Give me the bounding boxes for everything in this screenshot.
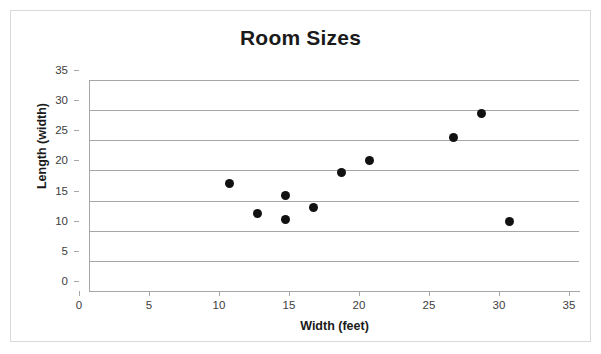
x-tick-label-25: 25 [423,299,436,311]
gridline-y-15 [89,201,579,202]
x-tick-label-30: 30 [493,299,506,311]
y-tick-mark-5 [74,251,79,252]
x-tick-mark-35 [569,291,570,296]
chart-title: Room Sizes [11,26,590,50]
data-point [253,209,262,218]
gridline-y-20 [89,170,579,171]
x-tick-mark-25 [429,291,430,296]
x-tick-mark-30 [499,291,500,296]
gridline-y-5 [89,261,579,262]
y-tick-mark-25 [74,130,79,131]
y-tick-mark-20 [74,160,79,161]
x-tick-label-5: 5 [146,299,152,311]
x-tick-label-0: 0 [76,299,82,311]
y-tick-label-0: 0 [11,275,68,287]
y-tick-label-15: 15 [11,185,68,197]
x-tick-mark-15 [289,291,290,296]
y-tick-label-35: 35 [11,64,68,76]
x-tick-label-20: 20 [353,299,366,311]
y-tick-label-20: 20 [11,154,68,166]
y-tick-mark-0 [74,281,79,282]
data-point [281,191,290,200]
y-tick-mark-15 [74,191,79,192]
data-point [449,133,458,142]
data-point [365,156,374,165]
y-tick-mark-10 [74,221,79,222]
data-point [281,215,290,224]
gridline-y-10 [89,231,579,232]
data-point [309,203,318,212]
y-tick-label-5: 5 [11,245,68,257]
plot-area [89,80,579,291]
data-point [225,179,234,188]
y-tick-label-30: 30 [11,94,68,106]
gridline-y-25 [89,140,579,141]
x-tick-label-10: 10 [213,299,226,311]
x-tick-label-15: 15 [283,299,296,311]
data-point [477,109,486,118]
y-tick-label-10: 10 [11,215,68,227]
x-axis-line [89,291,580,292]
data-point [337,168,346,177]
x-axis-title: Width (feet) [89,319,580,333]
y-tick-label-25: 25 [11,124,68,136]
x-tick-mark-10 [219,291,220,296]
chart-frame: Room Sizes Width (feet) Length (width) 0… [10,10,591,342]
y-tick-mark-35 [74,70,79,71]
data-point [505,217,514,226]
x-tick-mark-0 [79,291,80,296]
x-tick-mark-20 [359,291,360,296]
y-tick-mark-30 [74,100,79,101]
gridline-y-35 [89,80,579,81]
x-tick-label-35: 35 [563,299,576,311]
x-tick-mark-5 [149,291,150,296]
gridline-y-30 [89,110,579,111]
